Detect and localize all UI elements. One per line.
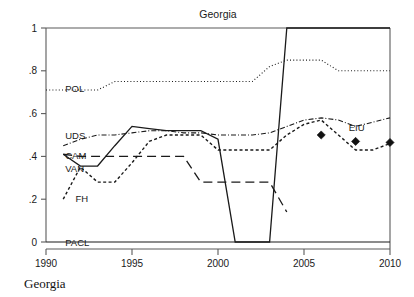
series-label-fh: FH (76, 193, 89, 204)
x-tick-label: 1995 (121, 258, 144, 269)
y-tick-label: .4 (29, 151, 38, 162)
y-tick-label: 0 (31, 237, 37, 248)
y-tick-label: .2 (29, 194, 38, 205)
x-tick-label: 2005 (293, 258, 316, 269)
chart-title: Georgia (199, 8, 237, 20)
series-label-pacl: PACL (65, 237, 89, 248)
series-label-pol: POL (65, 83, 84, 94)
y-tick-label: .8 (29, 65, 38, 76)
y-tick-label: 1 (31, 23, 37, 34)
series-label-van: VAN (65, 163, 84, 174)
chart-figure: Georgia 0.2.4.6.81 19901995200020052010 … (0, 0, 414, 297)
figure-caption: Georgia (24, 276, 66, 291)
x-tick-label: 2010 (379, 258, 402, 269)
series-label-uds: UDS (65, 130, 85, 141)
series-label-cam: CAM (65, 150, 86, 161)
chart-background (0, 0, 414, 297)
eiu-label-group: EIU (349, 122, 365, 133)
series-label-eiu: EIU (349, 122, 365, 133)
y-tick-label: .6 (29, 108, 38, 119)
x-tick-label: 2000 (207, 258, 230, 269)
x-tick-label: 1990 (35, 258, 58, 269)
